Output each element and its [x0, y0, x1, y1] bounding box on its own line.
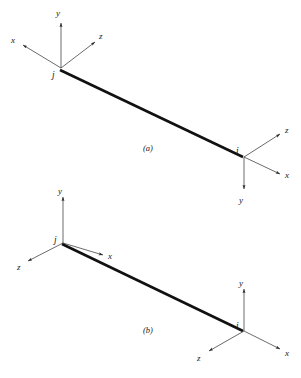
- beam-member-b: [62, 244, 243, 331]
- axis-x-line-i-a: [244, 157, 280, 174]
- figure-canvas: y x z j z x y i (a): [0, 0, 301, 378]
- axis-label-z-j-a: z: [98, 31, 103, 41]
- node-label-i-a: i: [236, 146, 239, 156]
- axis-label-z-i-a: z: [284, 125, 289, 135]
- panel-a: y x z j z x y i (a): [10, 8, 289, 205]
- node-j-axes-b: [28, 197, 103, 261]
- axis-label-x-j-b: x: [107, 251, 112, 261]
- axis-z-line-j-a: [61, 42, 95, 68]
- panel-caption-b: (b): [143, 325, 153, 335]
- beam-coordinate-system-figure: y x z j z x y i (a): [0, 0, 301, 378]
- axis-label-x-i-b: x: [284, 348, 289, 358]
- axis-z-line-i-a: [244, 134, 280, 157]
- node-label-j-a: j: [50, 70, 55, 80]
- axis-z-line-j-b: [28, 243, 63, 261]
- axis-z-line-i-b: [209, 331, 244, 351]
- node-label-i-b: i: [236, 321, 239, 331]
- panel-b: y z x j y z x i (b): [16, 186, 289, 363]
- node-label-j-b: j: [52, 235, 57, 245]
- panel-caption-a: (a): [143, 143, 153, 153]
- axis-label-y-i-a: y: [238, 195, 243, 205]
- axis-label-x-i-a: x: [284, 170, 289, 180]
- axis-label-y-j-a: y: [55, 8, 60, 18]
- axis-x-line-j-a: [23, 45, 61, 68]
- node-i-axes-a: [244, 134, 280, 189]
- axis-label-z-j-b: z: [16, 262, 21, 272]
- axis-x-line-i-b: [244, 331, 280, 349]
- axis-label-y-i-b: y: [238, 278, 243, 288]
- axis-label-y-j-b: y: [57, 186, 62, 196]
- axis-label-x-j-a: x: [10, 35, 15, 45]
- node-j-axes-a: [23, 23, 95, 68]
- axis-label-z-i-b: z: [196, 353, 201, 363]
